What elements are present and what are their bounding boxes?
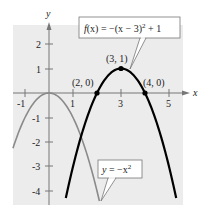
- x-axis-arrow-icon: [182, 91, 190, 96]
- point-4-0: [142, 90, 147, 95]
- x-tick-label: 1: [70, 98, 75, 109]
- y-tick-label: -2: [32, 137, 40, 148]
- y-axis-label: y: [45, 8, 51, 19]
- point-3-1: [118, 66, 123, 71]
- g-equation-label: y = −x2: [101, 163, 132, 175]
- x-axis-label: x: [192, 87, 198, 98]
- y-tick-label: 1: [36, 64, 41, 75]
- y-tick-label: -4: [32, 186, 40, 197]
- x-tick-label: 5: [166, 98, 171, 109]
- parabola-graph: x y -1 1 3 5 2 1 -1 -2 -3 -4: [0, 0, 203, 214]
- x-tick-label: -1: [17, 98, 25, 109]
- y-tick-label: -3: [32, 161, 40, 172]
- point-2-0: [94, 90, 99, 95]
- point-label-4-0: (4, 0): [143, 77, 165, 89]
- point-label-2-0: (2, 0): [72, 77, 94, 89]
- x-tick-label: 3: [118, 98, 123, 109]
- y-tick-label: 2: [36, 39, 41, 50]
- y-tick-label: -1: [32, 113, 40, 124]
- f-equation-label: f(x) = −(x − 3)2 + 1: [84, 22, 161, 35]
- point-label-3-1: (3, 1): [106, 53, 128, 65]
